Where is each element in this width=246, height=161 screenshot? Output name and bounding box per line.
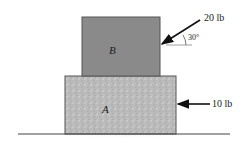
force-10lb-label: 10 lb: [212, 98, 232, 109]
angle-arc: [183, 35, 186, 45]
block-b: [82, 17, 160, 76]
force-20lb-label: 20 lb: [204, 12, 224, 23]
angle-label: 30°: [188, 33, 199, 42]
block-b-label: B: [109, 44, 116, 56]
diagram-canvas: A B 20 lb 30° 10 lb: [0, 0, 246, 161]
block-a-label: A: [101, 103, 109, 115]
block-a: [65, 76, 176, 134]
